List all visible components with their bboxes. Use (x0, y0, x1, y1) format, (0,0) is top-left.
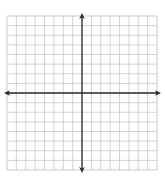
axes (4, 13, 161, 173)
coordinate-plane (0, 0, 165, 178)
